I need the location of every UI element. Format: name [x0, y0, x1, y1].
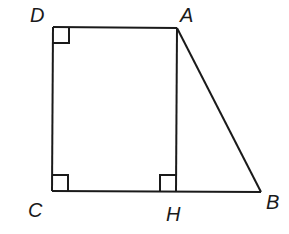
right-angle-marker-h	[160, 175, 176, 191]
trapezoid-diagram: D A C H B	[0, 0, 289, 234]
label-h: H	[166, 203, 181, 225]
segment-ab	[177, 28, 261, 192]
label-d: D	[30, 4, 44, 26]
right-angle-marker-d	[53, 27, 69, 43]
segment-cd	[52, 27, 53, 191]
segment-da	[53, 27, 177, 28]
segment-bc	[52, 191, 261, 192]
segment-ah	[176, 28, 177, 191]
label-b: B	[266, 191, 279, 213]
right-angle-marker-c	[52, 175, 68, 191]
label-a: A	[179, 4, 193, 26]
label-c: C	[28, 199, 43, 221]
